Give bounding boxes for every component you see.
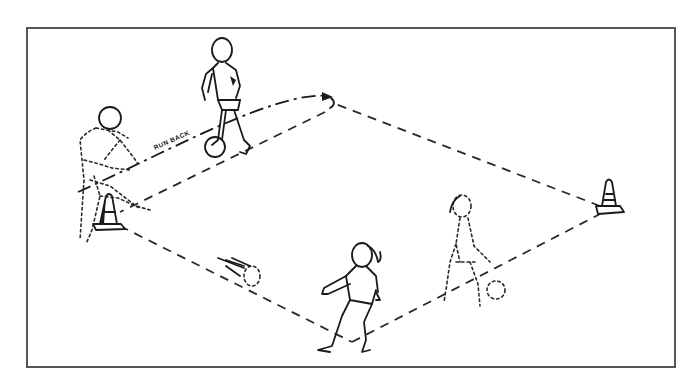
player-top xyxy=(202,38,250,154)
player-bottom-girl xyxy=(318,243,381,352)
ball-right xyxy=(487,281,505,299)
arrowhead-icon xyxy=(322,92,333,101)
right-cone xyxy=(596,180,624,215)
ball-moving xyxy=(218,258,260,286)
ball-top xyxy=(205,137,225,157)
field-boundary xyxy=(120,103,600,342)
run-back-label: RUN BACK xyxy=(153,129,191,151)
drill-diagram: RUN BACK xyxy=(0,0,699,388)
player-right-ghost-girl xyxy=(444,195,490,306)
